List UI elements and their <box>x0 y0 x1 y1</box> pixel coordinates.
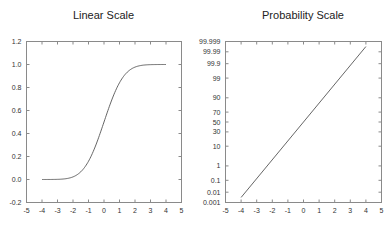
x-tick-label: -2 <box>269 207 275 214</box>
right-x-axis: -5-4-3-2-1012345 <box>222 42 383 215</box>
x-tick-label: 0 <box>302 207 306 214</box>
y-tick-label: 0.8 <box>12 84 22 91</box>
x-tick-label: -5 <box>222 207 228 214</box>
x-tick-label: 4 <box>364 207 368 214</box>
x-tick-label: 4 <box>164 207 168 214</box>
probability-scale-plot: Probability Scale -5-4-3-2-1012345 99.99… <box>199 9 383 214</box>
left-plot-title: Linear Scale <box>73 9 134 21</box>
y-tick-label: 0.6 <box>12 107 22 114</box>
y-tick-label: 0.4 <box>12 130 22 137</box>
x-tick-label: -1 <box>85 207 91 214</box>
y-tick-label: 70 <box>213 109 221 116</box>
x-tick-label: -3 <box>54 207 60 214</box>
y-tick-label: 30 <box>213 128 221 135</box>
right-y-axis: 99.99999.9999.999907050301010.10.010.001 <box>199 38 381 206</box>
y-tick-label: 0.01 <box>207 189 221 196</box>
x-tick-label: -1 <box>285 207 291 214</box>
x-tick-label: -5 <box>23 207 29 214</box>
x-tick-label: -2 <box>70 207 76 214</box>
y-tick-label: 0.2 <box>12 153 22 160</box>
y-tick-label: 90 <box>213 94 221 101</box>
x-tick-label: 2 <box>133 207 137 214</box>
y-tick-label: 99.99 <box>203 48 221 55</box>
right-plot-title: Probability Scale <box>262 9 344 21</box>
y-tick-label: 1 <box>217 162 221 169</box>
left-y-axis: 1.21.00.80.60.40.20.0-0.2 <box>9 38 181 206</box>
x-tick-label: 1 <box>118 207 122 214</box>
x-tick-label: 0 <box>102 207 106 214</box>
y-tick-label: -0.2 <box>9 199 21 206</box>
y-tick-label: 10 <box>213 143 221 150</box>
x-tick-label: 3 <box>348 207 352 214</box>
y-tick-label: 1.2 <box>12 38 22 45</box>
left-cdf-curve <box>42 65 166 180</box>
right-cdf-line <box>241 47 366 198</box>
x-tick-label: 5 <box>380 207 384 214</box>
y-tick-label: 1.0 <box>12 61 22 68</box>
left-x-axis: -5-4-3-2-1012345 <box>23 42 183 215</box>
x-tick-label: 2 <box>333 207 337 214</box>
x-tick-label: 1 <box>317 207 321 214</box>
y-tick-label: 50 <box>213 119 221 126</box>
chart-canvas: Linear Scale -5-4-3-2-1012345 1.21.00.80… <box>0 0 392 229</box>
y-tick-label: 0.001 <box>203 199 221 206</box>
x-tick-label: -4 <box>238 207 244 214</box>
y-tick-label: 99.999 <box>199 38 221 45</box>
x-tick-label: -3 <box>254 207 260 214</box>
linear-scale-plot: Linear Scale -5-4-3-2-1012345 1.21.00.80… <box>9 9 183 214</box>
y-tick-label: 99.9 <box>207 60 221 67</box>
y-tick-label: 99 <box>213 75 221 82</box>
y-tick-label: 0.0 <box>12 176 22 183</box>
y-tick-label: 0.1 <box>211 177 221 184</box>
x-tick-label: 5 <box>180 207 184 214</box>
x-tick-label: 3 <box>149 207 153 214</box>
x-tick-label: -4 <box>39 207 45 214</box>
